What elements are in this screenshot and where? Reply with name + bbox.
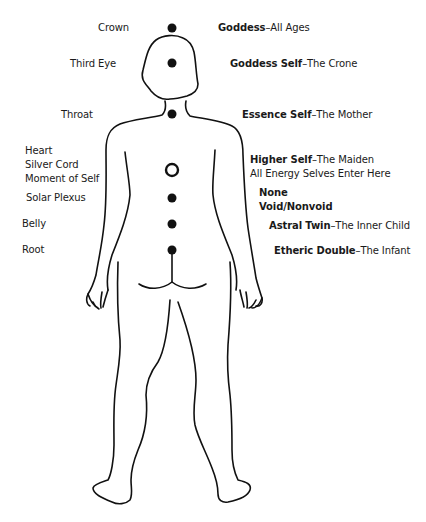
solar-plexus-dot bbox=[168, 194, 177, 203]
throat-dot bbox=[168, 110, 177, 119]
head-outline bbox=[142, 36, 198, 100]
label-astral-twin: Astral Twin–The Inner Child bbox=[269, 219, 410, 232]
left-arm-inner bbox=[107, 152, 130, 290]
label-goddess-self: Goddess Self–The Crone bbox=[230, 57, 357, 70]
label-essence-self: Essence Self–The Mother bbox=[242, 108, 372, 121]
label-silver-cord: Silver Cord bbox=[25, 158, 79, 171]
label-crown: Crown bbox=[98, 21, 129, 34]
label-goddess: Goddess–All Ages bbox=[218, 21, 310, 34]
left-leg-outer bbox=[93, 262, 170, 504]
label-higher-self: Higher Self–The Maiden bbox=[250, 153, 374, 166]
heart-ring bbox=[166, 164, 178, 176]
label-all-energy-selves: All Energy Selves Enter Here bbox=[250, 167, 390, 180]
label-moment-of-self: Moment of Self bbox=[25, 172, 99, 185]
label-etheric-double: Etheric Double–The Infant bbox=[274, 244, 410, 257]
body-figure bbox=[0, 0, 426, 522]
label-none: None bbox=[259, 186, 288, 199]
root-dot bbox=[168, 246, 177, 255]
buttocks-line bbox=[139, 282, 206, 288]
belly-dot bbox=[168, 220, 177, 229]
energy-centers bbox=[166, 24, 178, 255]
right-leg-outer bbox=[178, 262, 250, 502]
label-belly: Belly bbox=[22, 217, 46, 230]
label-third-eye: Third Eye bbox=[70, 57, 116, 70]
label-void-nonvoid: Void/Nonvoid bbox=[259, 200, 332, 213]
label-throat: Throat bbox=[61, 108, 93, 121]
right-hand bbox=[240, 290, 262, 308]
label-heart: Heart bbox=[25, 144, 52, 157]
right-arm-inner bbox=[213, 150, 237, 290]
torso-right-outline bbox=[186, 101, 263, 306]
third-eye-dot bbox=[168, 59, 177, 68]
crown-dot bbox=[168, 24, 177, 33]
torso-left-outline bbox=[87, 101, 166, 306]
label-root: Root bbox=[22, 243, 44, 256]
left-hand bbox=[88, 290, 108, 309]
label-solar-plexus: Solar Plexus bbox=[26, 191, 86, 204]
